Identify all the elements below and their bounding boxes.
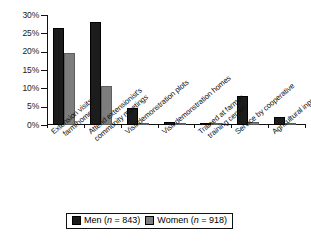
y-axis-tick-label: 5% [5, 102, 39, 111]
legend-swatch-men-icon [72, 216, 81, 225]
y-axis-tick-label: 20% [5, 47, 39, 56]
chart-legend: Men (n = 843) Women (n = 918) [66, 213, 233, 229]
legend-entry-men: Men (n = 843) [72, 215, 140, 226]
y-axis-tick-label: 25% [5, 29, 39, 38]
x-axis-tick [305, 124, 306, 128]
legend-label-men: Men (n = 843) [84, 215, 140, 226]
y-axis-tick-label: 10% [5, 84, 39, 93]
legend-entry-women: Women (n = 918) [145, 215, 227, 226]
y-axis-tick-label: 0% [5, 121, 39, 130]
y-axis-tick-label: 15% [5, 66, 39, 75]
bar-men [53, 28, 64, 125]
y-axis-tick-label: 30% [5, 11, 39, 20]
legend-swatch-women-icon [145, 216, 154, 225]
legend-label-women: Women (n = 918) [157, 215, 227, 226]
bar-chart: 0%5%10%15%20%25%30% Extension visitsfarm… [0, 0, 311, 242]
